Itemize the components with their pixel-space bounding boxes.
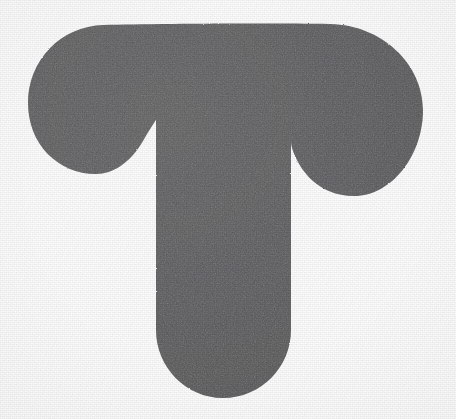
glyph-canvas: A thick dark gray letter T with rounded … <box>0 0 456 419</box>
letter-t-glyph: A thick dark gray letter T with rounded … <box>0 0 456 419</box>
